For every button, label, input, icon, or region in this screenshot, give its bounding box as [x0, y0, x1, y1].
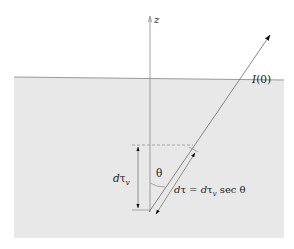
intensity-label: I(0) [251, 73, 271, 85]
radiative-transfer-diagram: z I(0) dτv θ dτ = dτv sec θ [0, 0, 294, 249]
angle-label: θ [156, 167, 162, 179]
absorbing-medium [14, 77, 284, 238]
z-axis-label: z [153, 14, 160, 25]
